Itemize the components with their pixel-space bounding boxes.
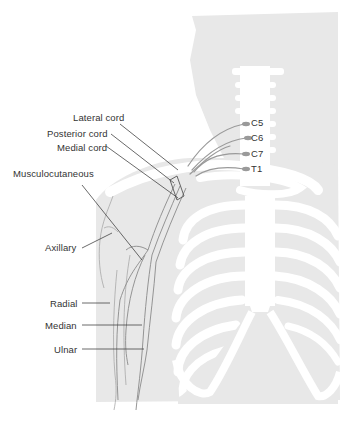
label-medial-cord: Medial cord — [57, 142, 107, 153]
label-axillary: Axillary — [45, 242, 76, 253]
label-lateral-cord: Lateral cord — [73, 112, 124, 123]
label-c7: C7 — [251, 148, 263, 159]
label-musculocutaneous: Musculocutaneous — [13, 168, 94, 179]
label-median: Median — [45, 320, 77, 331]
brachial-plexus-diagram: C5 C6 C7 T1 Lateral cord Posterior cord … — [0, 0, 352, 432]
label-radial: Radial — [50, 298, 78, 309]
label-c5: C5 — [251, 117, 263, 128]
label-t1: T1 — [251, 163, 262, 174]
anatomy-illustration — [0, 0, 352, 432]
label-ulnar: Ulnar — [54, 344, 77, 355]
label-posterior-cord: Posterior cord — [47, 128, 108, 139]
sternum — [245, 196, 275, 318]
label-c6: C6 — [251, 132, 263, 143]
